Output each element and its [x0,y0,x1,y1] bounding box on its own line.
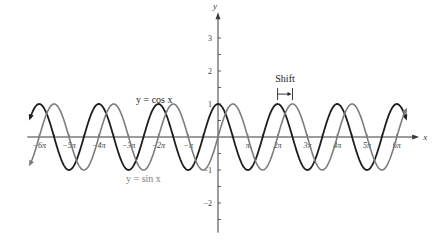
cos-curve-arrow-icon [29,114,34,121]
x-tick-label: −4π [92,141,106,150]
x-tick-label: −3π [122,141,136,150]
x-tick-label: −5π [62,141,76,150]
y-tick-label: −2 [203,199,212,208]
y-tick-label: 1 [208,100,212,109]
y-axis-label: y [212,1,217,11]
y-axis-arrow-icon [216,12,221,19]
shift-label: Shift [275,73,295,84]
shift-arrow-icon [288,92,292,96]
x-tick-label: −6π [32,141,46,150]
cos-curve-label: y = cos x [136,94,172,105]
x-axis-label: x [422,132,427,142]
ticks: −6π−5π−4π−3π−2π−ππ2π3π4π5π6π321−1−2 [32,34,401,220]
chart: xy −6π−5π−4π−3π−2π−ππ2π3π4π5π6π321−1−2 y… [0,0,437,247]
x-axis-arrow-icon [412,135,419,140]
x-tick-label: −2π [152,141,166,150]
y-tick-label: 3 [208,34,212,43]
y-tick-label: 2 [208,67,212,76]
sin-curve-label: y = sin x [126,173,161,184]
